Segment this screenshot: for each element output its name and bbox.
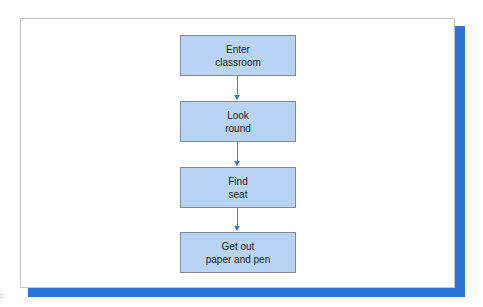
step-label-line2: paper and pen <box>206 253 271 266</box>
step-label-line1: Get out <box>222 240 255 253</box>
step-find-seat: Find seat <box>180 167 296 208</box>
step-label-line1: Enter <box>226 43 250 56</box>
step-look-round: Look round <box>180 101 296 142</box>
step-get-out-paper-and-pen: Get out paper and pen <box>180 232 296 273</box>
arrow-down-icon <box>234 95 240 100</box>
step-label-line2: seat <box>229 188 248 201</box>
step-label-line1: Find <box>228 175 247 188</box>
arrow-down-icon <box>234 161 240 166</box>
step-label-line1: Look <box>227 109 249 122</box>
connector-1-2 <box>237 76 238 96</box>
margin-mark: : <box>0 291 2 300</box>
step-enter-classroom: Enter classroom <box>180 35 296 76</box>
connector-2-3 <box>237 142 238 162</box>
step-label-line2: classroom <box>215 56 261 69</box>
step-label-line2: round <box>225 122 251 135</box>
arrow-down-icon <box>234 226 240 231</box>
connector-3-4 <box>237 207 238 227</box>
